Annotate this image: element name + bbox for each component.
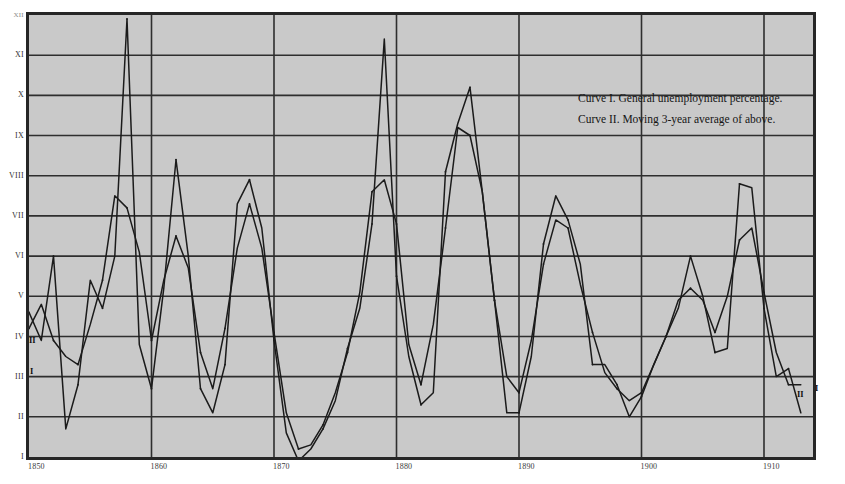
y-tick-VI: VI xyxy=(0,252,24,260)
curve-ii-label-right: II xyxy=(797,390,804,399)
y-axis: IIIIIIIVVVIVIIVIIIIXXXIXII xyxy=(0,12,24,460)
x-tick-1870: 1870 xyxy=(273,462,290,471)
y-tick-VII: VII xyxy=(0,212,24,220)
curve-lines xyxy=(29,15,813,457)
curve-ii-label-left: II xyxy=(29,336,36,345)
x-tick-1900: 1900 xyxy=(641,462,658,471)
y-tick-IX: IX xyxy=(0,132,24,140)
legend-entry-curve-i: Curve I. General unemployment percentage… xyxy=(578,88,828,109)
y-tick-XII: XII xyxy=(0,11,24,19)
y-tick-VIII: VIII xyxy=(0,172,24,180)
x-tick-1880: 1880 xyxy=(396,462,413,471)
figure-caption xyxy=(8,477,838,484)
legend: Curve I. General unemployment percentage… xyxy=(578,88,828,130)
plot-area xyxy=(26,12,816,460)
unemployment-chart-figure: IIIIIIIVVVIVIIVIIIIXXXIXII 1850186018701… xyxy=(0,0,845,484)
y-tick-I: I xyxy=(0,453,24,461)
plot-inner xyxy=(29,15,813,457)
y-tick-V: V xyxy=(0,292,24,300)
x-tick-1890: 1890 xyxy=(518,462,535,471)
y-tick-XI: XI xyxy=(0,51,24,59)
x-tick-1860: 1860 xyxy=(151,462,168,471)
x-tick-1910: 1910 xyxy=(763,462,780,471)
x-tick-1850: 1850 xyxy=(28,462,45,471)
y-tick-III: III xyxy=(0,373,24,381)
curve-i-label-right: I xyxy=(815,384,818,393)
y-tick-IV: IV xyxy=(0,333,24,341)
y-tick-X: X xyxy=(0,91,24,99)
y-tick-II: II xyxy=(0,413,24,421)
x-axis: 1850186018701880189019001910 xyxy=(26,462,816,476)
legend-entry-curve-ii: Curve II. Moving 3-year average of above… xyxy=(578,109,828,130)
curve-i-label-left: I xyxy=(30,367,33,376)
